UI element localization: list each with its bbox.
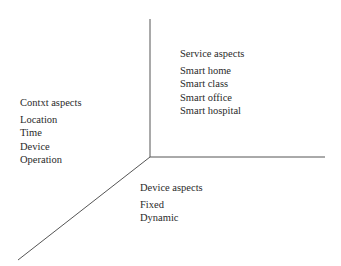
- context-item: Time: [20, 126, 82, 140]
- device-aspects-group: Device aspects Fixed Dynamic: [140, 181, 203, 225]
- service-item: Smart office: [180, 91, 244, 105]
- device-aspects-title: Device aspects: [140, 181, 203, 195]
- context-aspects-group: Contxt aspects Location Time Device Oper…: [20, 96, 82, 167]
- context-item: Location: [20, 113, 82, 127]
- service-item: Smart home: [180, 64, 244, 78]
- diagonal-axis: [18, 157, 150, 260]
- service-aspects-group: Service aspects Smart home Smart class S…: [180, 47, 244, 118]
- context-item: Operation: [20, 153, 82, 167]
- service-item: Smart hospital: [180, 104, 244, 118]
- device-item: Fixed: [140, 198, 203, 212]
- context-item: Device: [20, 140, 82, 154]
- service-aspects-title: Service aspects: [180, 47, 244, 61]
- service-item: Smart class: [180, 77, 244, 91]
- context-aspects-title: Contxt aspects: [20, 96, 82, 110]
- device-item: Dynamic: [140, 211, 203, 225]
